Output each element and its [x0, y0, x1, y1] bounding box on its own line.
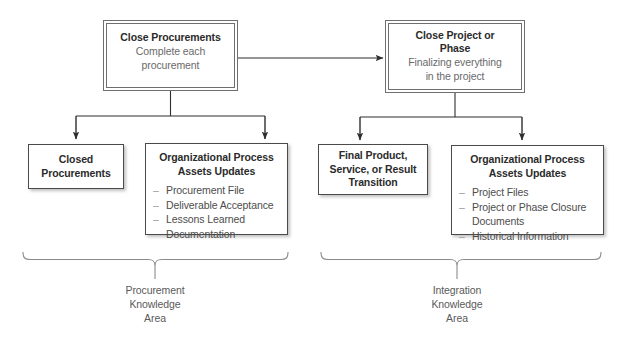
- close-project-title-line2: Phase: [440, 42, 470, 55]
- opa-left-content: Organizational Process Assets Updates – …: [146, 151, 287, 241]
- integration-knowledge-area-brace: [321, 252, 601, 279]
- final-product-title-line3: Transition: [348, 176, 397, 190]
- process-box-inner: Close Procurements Complete each procure…: [106, 23, 235, 88]
- dash-icon: –: [153, 212, 159, 227]
- opa-left-item-list: – Procurement File – Deliverable Accepta…: [146, 183, 287, 241]
- list-item-text: Project or Phase Closure: [472, 201, 586, 213]
- close-procurements-outputs-branch: [76, 91, 265, 139]
- output-box-closed-procurements[interactable]: Closed Procurements: [28, 144, 124, 189]
- list-item: – Procurement File: [146, 183, 287, 198]
- dash-icon: –: [153, 183, 159, 198]
- closed-procurements-title-line1: Closed: [59, 153, 93, 167]
- close-procurements-title: Close Procurements: [120, 31, 220, 44]
- brace-label-line1: Integration: [397, 283, 517, 297]
- final-product-title-line2: Service, or Result: [330, 163, 417, 177]
- list-item-text: Project Files: [472, 186, 528, 198]
- close-project-subtitle-line1: Finalizing everything: [408, 55, 502, 69]
- list-item: – Historical Information: [452, 229, 603, 244]
- process-box-close-procurements[interactable]: Close Procurements Complete each procure…: [103, 20, 238, 91]
- close-project-subtitle-line2: in the project: [426, 69, 485, 83]
- brace-label-line2: Knowledge: [95, 297, 215, 311]
- opa-left-heading-line2: Assets Updates: [146, 165, 287, 179]
- list-item: – Deliverable Acceptance: [146, 198, 287, 213]
- close-project-outputs-branch: [360, 93, 522, 140]
- brace-label-line3: Area: [397, 311, 517, 325]
- final-product-title-line1: Final Product,: [339, 149, 408, 163]
- dash-icon: –: [153, 198, 159, 213]
- list-item: – Project or Phase Closure Documents: [452, 200, 603, 229]
- opa-left-heading-line1: Organizational Process: [146, 151, 287, 165]
- dash-icon: –: [459, 229, 465, 244]
- brace-label-integration-knowledge-area: Integration Knowledge Area: [397, 283, 517, 325]
- brace-label-line3: Area: [95, 311, 215, 325]
- list-item-text: Deliverable Acceptance: [166, 199, 274, 211]
- dash-icon: –: [459, 200, 465, 215]
- brace-label-line1: Procurement: [95, 283, 215, 297]
- brace-label-line2: Knowledge: [397, 297, 517, 311]
- list-item-text: Procurement File: [166, 184, 244, 196]
- output-box-final-product-transition[interactable]: Final Product, Service, or Result Transi…: [318, 144, 428, 195]
- output-box-content: Final Product, Service, or Result Transi…: [319, 145, 427, 194]
- procurement-knowledge-area-brace: [23, 252, 288, 279]
- opa-right-heading-line1: Organizational Process: [452, 153, 603, 167]
- list-item-text: Lessons Learned: [166, 213, 245, 225]
- opa-right-heading-line2: Assets Updates: [452, 167, 603, 181]
- output-box-opa-updates-procurement[interactable]: Organizational Process Assets Updates – …: [145, 143, 288, 235]
- list-item: – Lessons Learned Documentation: [146, 212, 287, 241]
- close-project-title-line1: Close Project or: [416, 29, 495, 42]
- output-box-opa-updates-integration[interactable]: Organizational Process Assets Updates – …: [451, 145, 604, 235]
- brace-label-procurement-knowledge-area: Procurement Knowledge Area: [95, 283, 215, 325]
- list-item: – Project Files: [452, 185, 603, 200]
- output-box-content: Closed Procurements: [29, 145, 123, 188]
- close-procurements-subtitle-line1: Complete each: [136, 44, 205, 58]
- process-box-close-project-or-phase[interactable]: Close Project or Phase Finalizing everyt…: [385, 20, 525, 93]
- process-box-inner: Close Project or Phase Finalizing everyt…: [388, 23, 522, 90]
- opa-right-content: Organizational Process Assets Updates – …: [452, 153, 603, 243]
- list-item-continuation: Documentation: [166, 227, 287, 242]
- dash-icon: –: [459, 185, 465, 200]
- diagram-canvas: Close Procurements Complete each procure…: [0, 0, 629, 351]
- list-item-text: Historical Information: [472, 230, 568, 242]
- list-item-continuation: Documents: [472, 214, 603, 229]
- closed-procurements-title-line2: Procurements: [41, 167, 110, 181]
- opa-right-item-list: – Project Files – Project or Phase Closu…: [452, 185, 603, 243]
- close-procurements-subtitle-line2: procurement: [142, 58, 200, 72]
